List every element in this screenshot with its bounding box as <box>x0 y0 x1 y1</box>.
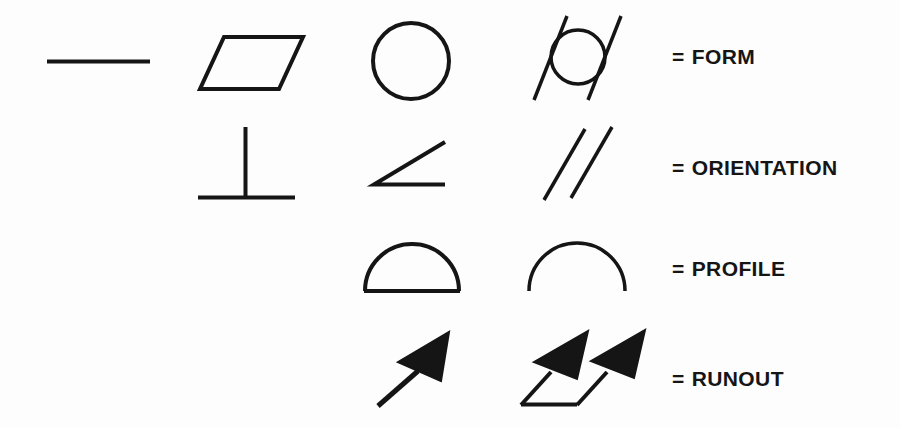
row-label-orientation-text: ORIENTATION <box>692 156 838 179</box>
row-label-runout: =RUNOUT <box>672 368 784 389</box>
row-label-profile-text: PROFILE <box>692 257 786 280</box>
profile-of-a-surface-symbol <box>364 244 460 291</box>
equals-sign: = <box>672 157 685 178</box>
circular-runout-arrowhead <box>398 332 449 381</box>
parallelism-symbol <box>544 127 612 200</box>
cylindricity-symbol <box>534 16 621 100</box>
angularity-angle <box>374 142 445 185</box>
flatness-parallelogram <box>200 37 303 89</box>
circularity-symbol <box>373 23 449 99</box>
circular-runout-shaft <box>378 371 418 406</box>
parallelism-first-line <box>544 129 585 200</box>
equals-sign: = <box>672 258 685 279</box>
symbol-canvas <box>0 0 900 428</box>
equals-sign: = <box>672 46 685 67</box>
perpendicularity-symbol <box>198 127 295 199</box>
gdt-symbol-chart: =FORM =ORIENTATION =PROFILE =RUNOUT <box>0 0 900 428</box>
row-label-profile: =PROFILE <box>672 258 785 279</box>
profile-of-a-line-symbol <box>529 243 625 291</box>
parallelism-second-line <box>571 127 612 198</box>
total-runout-left-shaft <box>521 372 551 405</box>
equals-sign: = <box>672 368 685 389</box>
row-label-orientation: =ORIENTATION <box>672 157 838 178</box>
row-label-form: =FORM <box>672 46 755 67</box>
total-runout-right-shaft <box>577 372 607 405</box>
profile-surface-arc <box>365 244 459 291</box>
cylindricity-right-line <box>588 16 621 100</box>
profile-line-arc <box>529 243 625 291</box>
angularity-symbol <box>374 142 445 185</box>
total-runout-symbol <box>521 330 645 405</box>
circular-runout-symbol <box>378 332 449 406</box>
total-runout-right-arrowhead <box>591 330 645 378</box>
circularity-circle <box>373 23 449 99</box>
cylindricity-left-line <box>534 16 567 100</box>
row-label-form-text: FORM <box>692 45 755 68</box>
flatness-symbol <box>200 37 303 89</box>
total-runout-left-arrowhead <box>534 331 588 379</box>
row-label-runout-text: RUNOUT <box>692 367 784 390</box>
